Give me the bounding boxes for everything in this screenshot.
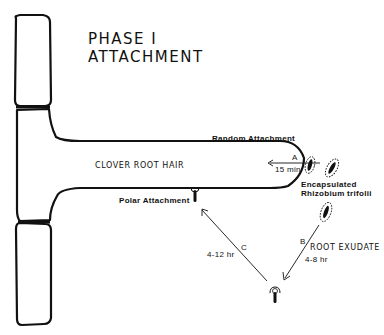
- root-hair-label: CLOVER ROOT HAIR: [95, 161, 184, 170]
- bacterium-polar-free: [270, 287, 280, 303]
- title-line-2: ATTACHMENT: [88, 48, 204, 67]
- step-b-letter: B: [300, 237, 306, 246]
- arrow-c: [202, 209, 267, 281]
- bacterium-encapsulated: [323, 157, 342, 179]
- step-a-time: 15 min: [275, 165, 301, 174]
- step-a-letter: A: [292, 153, 298, 162]
- title-line-1: PHASE I: [88, 30, 157, 49]
- encapsulated-label-line-2: Rhizobium trifolii: [301, 189, 372, 198]
- bacterium-polar-attached: [191, 188, 199, 202]
- root-exudate-label: ROOT EXUDATE: [310, 243, 380, 252]
- bacterium-random-attached: [303, 156, 316, 175]
- arrow-b: [283, 225, 319, 280]
- encapsulated-label-line-1: Encapsulated: [301, 180, 357, 189]
- step-b-time: 4-8 hr: [305, 255, 328, 264]
- random-attachment-label: Random Attachment: [212, 134, 295, 143]
- epidermal-cell-top: [15, 15, 51, 106]
- polar-attachment-label: Polar Attachment: [119, 196, 190, 205]
- bacterium-exudate: [318, 201, 334, 223]
- step-c-letter: C: [241, 243, 247, 252]
- epidermal-cell-bottom: [16, 223, 51, 325]
- step-c-time: 4-12 hr: [207, 250, 234, 259]
